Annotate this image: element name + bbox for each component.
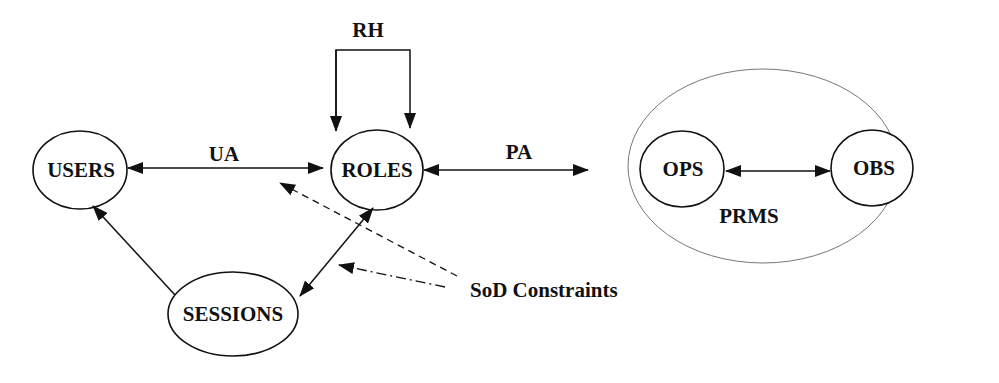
node-obs-label: OBS xyxy=(853,156,895,180)
node-sessions: SESSIONS xyxy=(168,272,298,356)
node-roles-label: ROLES xyxy=(341,158,412,182)
node-ops-label: OPS xyxy=(663,157,704,181)
edge-ua: UA xyxy=(128,142,323,168)
edge-sessions-users xyxy=(93,206,175,295)
edge-rh: RH xyxy=(336,18,410,131)
sod-constraints-label: SoD Constraints xyxy=(470,278,618,302)
edge-pa: PA xyxy=(424,140,588,170)
node-users: USERS xyxy=(33,131,127,209)
node-users-label: USERS xyxy=(47,158,115,182)
edge-pa-label: PA xyxy=(506,140,533,164)
node-sessions-label: SESSIONS xyxy=(183,302,283,326)
edge-sessions-roles xyxy=(300,208,373,296)
edge-rh-label: RH xyxy=(352,18,384,42)
node-ops: OPS xyxy=(640,131,724,207)
prms-label: PRMS xyxy=(719,204,779,228)
node-roles: ROLES xyxy=(331,130,423,210)
rbac-diagram: PRMS USERS ROLES SESSIONS OPS OBS UA PA xyxy=(0,0,999,383)
node-obs: OBS xyxy=(831,130,913,206)
edge-ua-label: UA xyxy=(209,142,240,166)
